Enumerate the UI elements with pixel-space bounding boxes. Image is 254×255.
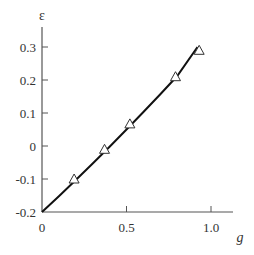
chart: -0.2-0.100.10.20.3 00.51.0 ε g bbox=[0, 0, 254, 255]
fit-curve bbox=[42, 47, 198, 212]
x-tick-label: 0.5 bbox=[118, 220, 134, 235]
x-tick-label: 0 bbox=[39, 220, 46, 235]
y-tick-label: -0.1 bbox=[15, 172, 36, 187]
x-ticks: 00.51.0 bbox=[39, 206, 219, 235]
x-tick-label: 1.0 bbox=[203, 220, 219, 235]
x-axis-label: g bbox=[237, 230, 244, 245]
y-tick-label: 0.1 bbox=[20, 106, 36, 121]
y-tick-label: 0.2 bbox=[20, 73, 36, 88]
y-tick-label: 0 bbox=[30, 139, 37, 154]
y-tick-label: 0.3 bbox=[20, 40, 36, 55]
y-tick-label: -0.2 bbox=[15, 205, 36, 220]
y-axis-label: ε bbox=[39, 8, 45, 23]
y-ticks: -0.2-0.100.10.20.3 bbox=[15, 40, 48, 220]
